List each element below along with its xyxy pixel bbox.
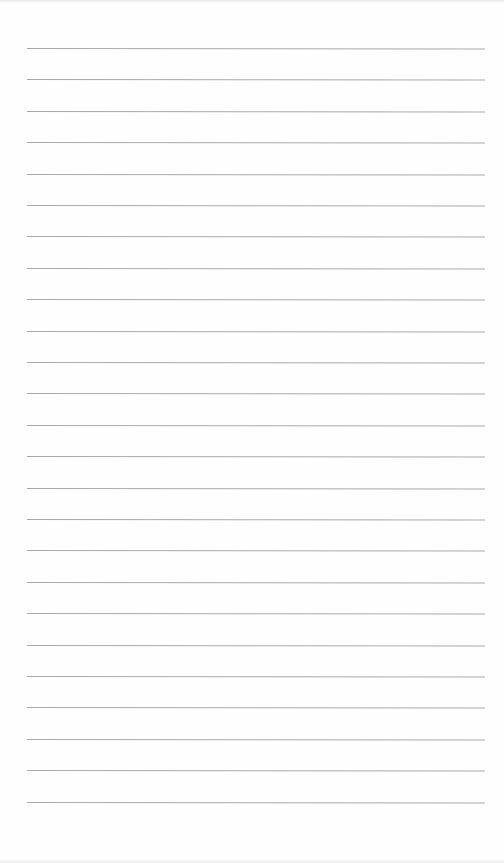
ruled-line	[27, 174, 485, 175]
ruled-line	[27, 48, 485, 49]
ruled-line	[27, 707, 485, 708]
ruled-line	[27, 676, 485, 677]
ruled-line	[27, 802, 485, 803]
ruled-line	[27, 111, 485, 112]
ruled-line	[27, 645, 485, 646]
ruled-line	[27, 393, 485, 394]
ruled-line	[27, 331, 485, 332]
scan-edge-bottom	[0, 859, 504, 863]
ruled-line	[27, 205, 485, 206]
ruled-line	[27, 770, 485, 771]
ruled-line	[27, 550, 485, 551]
ruled-line	[27, 142, 485, 143]
lined-paper-page	[0, 0, 504, 863]
ruled-line	[27, 299, 485, 300]
ruled-line	[27, 456, 485, 457]
ruled-line	[27, 362, 485, 363]
ruled-line	[27, 582, 485, 583]
ruled-line	[27, 425, 485, 426]
ruled-line	[27, 519, 485, 520]
ruled-line	[27, 79, 485, 80]
ruled-line	[27, 488, 485, 489]
ruled-line	[27, 268, 485, 269]
ruled-line	[27, 236, 485, 237]
scan-edge-top	[0, 0, 504, 3]
ruled-line	[27, 613, 485, 614]
ruled-line	[27, 739, 485, 740]
